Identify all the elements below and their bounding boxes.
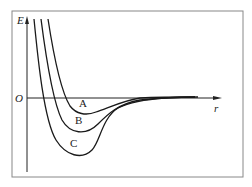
- origin-label: O: [15, 93, 23, 104]
- curve-b-label: B: [75, 115, 82, 126]
- x-axis-label: r: [214, 103, 218, 114]
- curve-c: [34, 19, 198, 155]
- curve-a: [48, 19, 195, 114]
- curve-c-label: C: [70, 138, 77, 149]
- frame-border: [12, 11, 243, 177]
- curve-b: [41, 19, 195, 132]
- curve-a-label: A: [79, 98, 87, 109]
- y-axis-arrow-icon: [25, 16, 29, 24]
- energy-diagram: [0, 0, 252, 187]
- x-axis-arrow-icon: [213, 96, 222, 100]
- y-axis-label: E: [17, 15, 24, 26]
